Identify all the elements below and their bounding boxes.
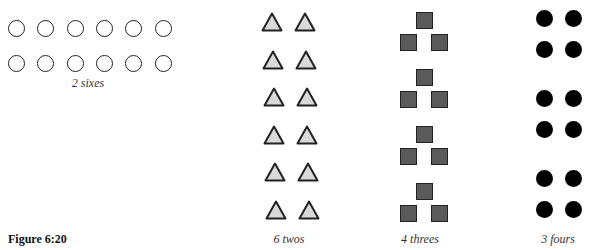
open-circle-icon	[125, 55, 142, 72]
square-icon	[416, 183, 433, 200]
square-icon	[416, 126, 433, 143]
triangle-icon	[263, 125, 285, 149]
caption-threes: 4 threes	[401, 232, 439, 247]
triangle-icon	[263, 87, 285, 111]
triangle-icon	[262, 50, 284, 74]
filled-circle-icon	[565, 201, 582, 218]
square-icon	[431, 34, 448, 51]
filled-circle-icon	[536, 90, 553, 107]
caption-twos: 6 twos	[273, 232, 304, 247]
filled-circle-icon	[565, 90, 582, 107]
triangle-icon	[294, 12, 316, 36]
open-circle-icon	[8, 55, 25, 72]
open-circle-icon	[96, 20, 113, 37]
filled-circle-icon	[565, 121, 582, 138]
triangle-icon	[264, 162, 286, 186]
triangle-icon	[261, 12, 283, 36]
triangle-icon	[265, 200, 287, 224]
triangle-icon	[297, 162, 319, 186]
caption-sixes: 2 sixes	[72, 76, 104, 91]
square-icon	[431, 91, 448, 108]
square-icon	[400, 148, 417, 165]
open-circle-icon	[67, 20, 84, 37]
filled-circle-icon	[565, 170, 582, 187]
filled-circle-icon	[565, 41, 582, 58]
filled-circle-icon	[565, 10, 582, 27]
filled-circle-icon	[536, 121, 553, 138]
square-icon	[400, 34, 417, 51]
filled-circle-icon	[536, 170, 553, 187]
square-icon	[431, 205, 448, 222]
open-circle-icon	[37, 20, 54, 37]
open-circle-icon	[96, 55, 113, 72]
filled-circle-icon	[536, 10, 553, 27]
square-icon	[431, 148, 448, 165]
triangle-icon	[296, 125, 318, 149]
filled-circle-icon	[536, 201, 553, 218]
square-icon	[416, 69, 433, 86]
square-icon	[416, 12, 433, 29]
square-icon	[400, 91, 417, 108]
filled-circle-icon	[536, 41, 553, 58]
figure-label: Figure 6:20	[8, 232, 67, 247]
open-circle-icon	[37, 55, 54, 72]
triangle-icon	[296, 87, 318, 111]
triangle-icon	[298, 200, 320, 224]
square-icon	[400, 205, 417, 222]
open-circle-icon	[8, 20, 25, 37]
open-circle-icon	[67, 55, 84, 72]
open-circle-icon	[155, 20, 172, 37]
open-circle-icon	[125, 20, 142, 37]
caption-fours: 3 fours	[541, 232, 575, 247]
triangle-icon	[295, 50, 317, 74]
open-circle-icon	[155, 55, 172, 72]
